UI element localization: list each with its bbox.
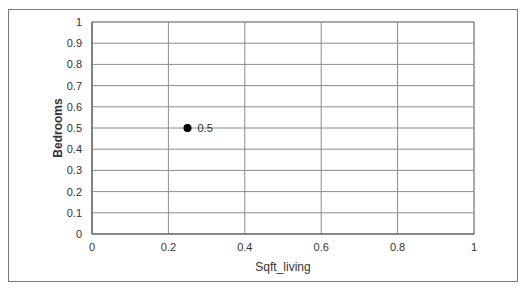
y-tick-label: 0.2 [67, 186, 82, 198]
data-label: 0.5 [198, 122, 213, 134]
y-tick-label: 0.8 [67, 58, 82, 70]
scatter-chart: 00.10.20.30.40.50.60.70.80.91 00.20.40.6… [0, 0, 527, 290]
x-tick-label: 0.4 [237, 241, 252, 253]
grid-lines [92, 22, 474, 234]
x-axis-title: Sqft_living [255, 260, 310, 274]
y-tick-label: 0.1 [67, 207, 82, 219]
y-axis-ticks: 00.10.20.30.40.50.60.70.80.91 [67, 16, 82, 240]
y-tick-label: 0 [76, 228, 82, 240]
y-tick-label: 0.7 [67, 80, 82, 92]
y-tick-label: 0.6 [67, 101, 82, 113]
data-point-marker [184, 124, 192, 132]
y-tick-label: 0.5 [67, 122, 82, 134]
x-tick-label: 0.8 [390, 241, 405, 253]
y-tick-label: 1 [76, 16, 82, 28]
x-tick-label: 1 [471, 241, 477, 253]
y-axis-title: Bedrooms [51, 98, 65, 158]
x-axis-ticks: 00.20.40.60.81 [89, 241, 477, 253]
y-tick-label: 0.3 [67, 164, 82, 176]
x-tick-label: 0.6 [314, 241, 329, 253]
y-tick-label: 0.9 [67, 37, 82, 49]
data-points: 0.5 [184, 122, 213, 134]
y-tick-label: 0.4 [67, 143, 82, 155]
x-tick-label: 0 [89, 241, 95, 253]
x-tick-label: 0.2 [161, 241, 176, 253]
